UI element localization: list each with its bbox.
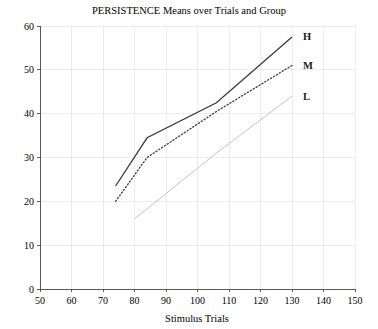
chart-title: PERSISTENCE Means over Trials and Group (92, 5, 286, 16)
chart-container: 0102030405060 50607080901001101201301401… (0, 0, 378, 329)
y-tick-label: 30 (24, 152, 34, 163)
x-tick-label: 100 (190, 295, 205, 306)
x-tick-label: 150 (348, 295, 363, 306)
series-label-l: L (303, 91, 310, 102)
x-tick-label: 70 (98, 295, 108, 306)
series-line-m (116, 65, 292, 201)
x-axis-title: Stimulus Trials (165, 313, 229, 324)
series-labels-group: HML (303, 31, 313, 101)
series-label-m: M (303, 60, 313, 71)
x-tick-label: 120 (253, 295, 268, 306)
persistence-line-chart: 0102030405060 50607080901001101201301401… (0, 0, 378, 329)
y-tick-label: 60 (24, 21, 34, 32)
y-tick-label: 20 (24, 196, 34, 207)
y-tick-label: 50 (24, 64, 34, 75)
x-tick-label: 60 (67, 295, 77, 306)
y-tick-label: 0 (29, 284, 34, 295)
data-series-group (116, 37, 292, 219)
x-tick-label: 110 (222, 295, 237, 306)
x-tick-label: 50 (35, 295, 45, 306)
y-tick-label: 10 (24, 240, 34, 251)
x-tick-label: 90 (161, 295, 171, 306)
x-tick-label: 130 (285, 295, 300, 306)
x-tick-label: 80 (130, 295, 140, 306)
series-label-h: H (303, 31, 311, 42)
x-tick-label: 140 (316, 295, 331, 306)
y-tick-label: 40 (24, 108, 34, 119)
y-axis-ticks-group: 0102030405060 (24, 21, 40, 295)
x-axis-ticks-group: 5060708090100110120130140150 (35, 289, 363, 306)
